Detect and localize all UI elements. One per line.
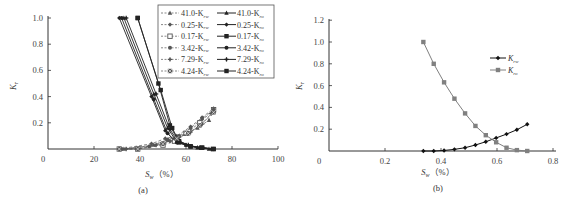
legend-marker-icon: [168, 34, 172, 38]
xlabel-a: Sw（%）: [145, 169, 178, 180]
x-tick-label: 0.2: [380, 156, 391, 166]
square-marker-icon: [473, 124, 477, 128]
square-marker-icon: [421, 40, 425, 44]
circle-marker-icon: [152, 97, 156, 101]
square-marker-icon: [170, 126, 174, 130]
legend-marker-icon: [225, 46, 229, 50]
legend-marker-icon: [168, 69, 172, 73]
chart-panel-a: 0.20.40.60.81.0020406080100 41.0-Krw41.0…: [8, 5, 284, 195]
square-marker-icon: [515, 148, 519, 152]
x-tick-label: 60: [182, 154, 191, 164]
square-marker-icon: [494, 140, 498, 144]
legend-marker-icon: [224, 34, 228, 38]
square-marker-icon: [136, 16, 140, 20]
y-tick-label: 1.2: [313, 15, 324, 25]
circle-marker-icon: [120, 16, 124, 20]
square-marker-icon: [432, 62, 436, 66]
x-square-marker-icon: [198, 123, 202, 127]
y-tick-label: 0.8: [32, 39, 43, 49]
legend-label-K_ro: Kro: [507, 66, 518, 76]
x-tick-label: 0.4: [436, 156, 447, 166]
diamond-marker-icon: [484, 140, 488, 144]
legend-b: KrwKro: [490, 54, 519, 76]
diamond-marker-icon: [504, 132, 508, 136]
legend-label-K_rw: Krw: [507, 54, 519, 64]
diamond-marker-icon: [442, 148, 446, 152]
square-marker-icon: [442, 80, 446, 84]
square-marker-icon: [504, 146, 508, 150]
diamond-marker-icon: [432, 149, 436, 153]
y-tick-label: 0.2: [313, 124, 324, 134]
x-tick-label: 100: [272, 154, 285, 164]
diamond-marker-icon: [525, 122, 529, 126]
xlabel-b: Sw（%）: [421, 167, 454, 178]
caption-b: (b): [433, 183, 443, 193]
diamond-marker-icon: [473, 143, 477, 147]
circle-marker-icon: [166, 131, 170, 135]
x-tick-label: 40: [136, 154, 145, 164]
y-tick-label: 0.2: [32, 118, 43, 128]
caption-a: (a): [138, 185, 148, 195]
legend-marker-icon: [496, 68, 500, 72]
legend-marker-icon: [224, 69, 228, 73]
x-square-marker-icon: [211, 110, 215, 114]
square-marker-icon: [159, 88, 163, 92]
y-tick-label: 1.0: [32, 13, 43, 23]
y-tick-label: 1.0: [313, 37, 324, 47]
ylabel-b: Kr: [294, 81, 305, 91]
square-marker-icon: [525, 149, 529, 153]
x-tick-label: 0.6: [492, 156, 503, 166]
legend-marker-icon: [496, 56, 500, 60]
y-tick-label: 0.8: [313, 59, 324, 69]
circle-marker-icon: [189, 126, 193, 130]
x-tick-label: 0: [317, 156, 321, 166]
y-tick-label: 0.4: [313, 102, 324, 112]
diamond-marker-icon: [515, 128, 519, 132]
legend-a: 41.0-Krw41.0-Kro0.25-Krw0.25-Kro0.17-Krw…: [158, 5, 274, 78]
x-square-marker-icon: [136, 147, 140, 151]
square-marker-icon: [200, 145, 204, 149]
figure: 0.20.40.60.81.0020406080100 41.0-Krw41.0…: [0, 0, 568, 205]
diamond-marker-icon: [463, 146, 467, 150]
x-square-marker-icon: [175, 136, 179, 140]
x-square-marker-icon: [117, 147, 121, 151]
ylabel-a: Kr: [8, 81, 19, 91]
chart-panel-b: 0.20.40.60.81.01.200.20.40.60.8 KrwKro K…: [294, 15, 558, 193]
square-marker-icon: [188, 144, 192, 148]
x-square-marker-icon: [186, 131, 190, 135]
square-marker-icon: [484, 133, 488, 137]
x-tick-label: 80: [228, 154, 237, 164]
x-square-marker-icon: [161, 142, 165, 146]
y-tick-label: 0.6: [32, 65, 43, 75]
legend-marker-icon: [168, 46, 172, 50]
circle-marker-icon: [200, 117, 204, 121]
square-marker-icon: [211, 147, 215, 151]
square-marker-icon: [452, 96, 456, 100]
y-tick-label: 0.4: [32, 92, 43, 102]
axes-b: 0.20.40.60.81.01.200.20.40.60.8: [313, 15, 558, 166]
diamond-marker-icon: [494, 136, 498, 140]
x-tick-label: 0.8: [548, 156, 559, 166]
square-marker-icon: [463, 111, 467, 115]
y-tick-label: 0.6: [313, 81, 324, 91]
x-tick-label: 20: [90, 154, 99, 164]
diamond-marker-icon: [421, 149, 425, 153]
x-tick-label: 0: [41, 154, 45, 164]
